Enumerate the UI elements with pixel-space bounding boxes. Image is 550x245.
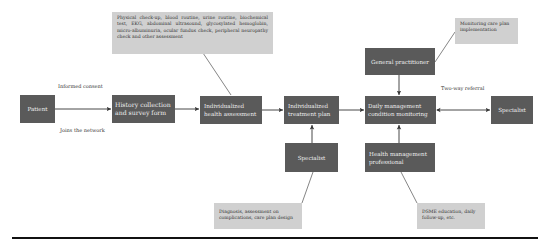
node-health-mgmt-professional: Health management professional bbox=[365, 143, 435, 172]
node-health-assessment: Individualized health assessment bbox=[200, 96, 262, 124]
label-joins-network: Joins the network bbox=[60, 127, 105, 133]
note-connector-monitoring bbox=[435, 32, 455, 62]
note-monitoring: Monitoring care plan implementation bbox=[455, 18, 518, 44]
note-connector-dsme bbox=[401, 172, 417, 203]
label-two-way-referral: Two-way referral bbox=[441, 85, 484, 91]
bottom-rule bbox=[12, 237, 538, 239]
node-daily-management: Daily management condition monitoring bbox=[365, 96, 436, 124]
node-general-practitioner: General practitioner bbox=[365, 48, 435, 75]
note-diagnosis: Diagnosis, assessment on complications, … bbox=[214, 203, 302, 229]
node-specialist-right: Specialist bbox=[491, 96, 533, 124]
note-connector-diagnosis bbox=[302, 172, 313, 203]
label-informed-consent: Informed consent bbox=[58, 83, 103, 89]
note-dsme: DSME education, daily follow-up, etc. bbox=[417, 203, 485, 229]
note-connector-assessment bbox=[203, 53, 231, 95]
node-specialist-bottom: Specialist bbox=[285, 143, 338, 172]
node-patient: Patient bbox=[20, 95, 55, 123]
note-assessment-items: Physical check-up, blood routine, urine … bbox=[112, 12, 273, 54]
node-history-collection: History collection and survey form bbox=[112, 95, 175, 123]
node-treatment-plan: Individualized treatment plan bbox=[284, 96, 339, 124]
